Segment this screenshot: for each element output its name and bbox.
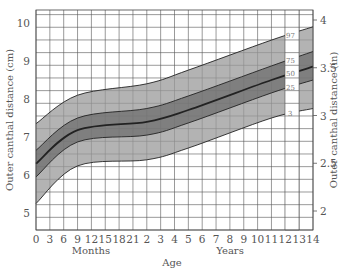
x-axis-label: Age xyxy=(161,257,182,268)
svg-text:3: 3 xyxy=(157,233,164,245)
svg-text:7: 7 xyxy=(213,233,220,245)
svg-text:3: 3 xyxy=(320,110,327,122)
svg-text:3: 3 xyxy=(47,233,54,245)
svg-text:10: 10 xyxy=(17,17,30,29)
svg-text:8: 8 xyxy=(227,233,234,245)
svg-text:7: 7 xyxy=(23,131,30,143)
svg-text:0: 0 xyxy=(33,233,40,245)
svg-text:6: 6 xyxy=(23,169,30,181)
svg-text:4: 4 xyxy=(171,233,178,245)
svg-text:13: 13 xyxy=(292,233,305,245)
svg-text:6: 6 xyxy=(60,233,67,245)
svg-text:5: 5 xyxy=(185,233,192,245)
label-column xyxy=(285,10,299,230)
months-label: Months xyxy=(72,245,110,256)
svg-text:9: 9 xyxy=(23,55,30,67)
svg-text:15: 15 xyxy=(99,233,112,245)
svg-text:12: 12 xyxy=(85,233,98,245)
x-axis-ticks: 036912151821234567891011121314 xyxy=(33,233,320,245)
svg-text:2: 2 xyxy=(320,205,327,217)
pct-25-label: 25 xyxy=(286,84,295,92)
pct-3-label: 3 xyxy=(288,110,292,118)
growth-chart: 97 75 50 25 3 5678910 22.533.54 03691215… xyxy=(0,0,346,278)
left-y-axis-ticks: 5678910 xyxy=(17,17,31,219)
svg-text:5: 5 xyxy=(23,207,30,219)
right-y-axis-label: Outer canthal distance (in) xyxy=(328,52,339,189)
svg-text:9: 9 xyxy=(74,233,81,245)
svg-text:8: 8 xyxy=(23,93,30,105)
svg-text:10: 10 xyxy=(251,233,264,245)
years-label: Years xyxy=(215,245,244,256)
pct-75-label: 75 xyxy=(286,57,295,65)
svg-text:14: 14 xyxy=(306,233,320,245)
svg-text:18: 18 xyxy=(112,233,125,245)
svg-text:4: 4 xyxy=(320,14,327,26)
svg-text:11: 11 xyxy=(265,233,278,245)
pct-97-label: 97 xyxy=(286,32,295,40)
pct-50-label: 50 xyxy=(286,70,295,78)
svg-text:21: 21 xyxy=(126,233,139,245)
svg-text:2: 2 xyxy=(143,233,150,245)
svg-text:6: 6 xyxy=(199,233,206,245)
svg-text:9: 9 xyxy=(240,233,247,245)
left-y-axis-label: Outer canthal distance (cm) xyxy=(4,49,15,191)
svg-text:12: 12 xyxy=(279,233,292,245)
